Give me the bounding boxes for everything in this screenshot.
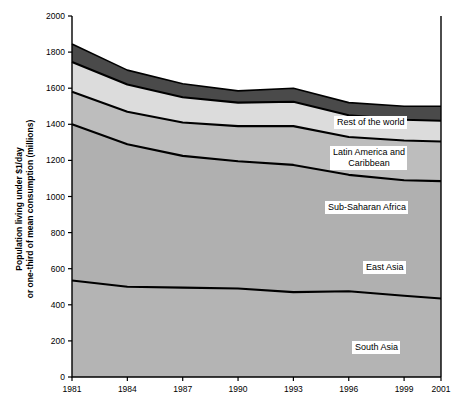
y-tick-label: 400 bbox=[51, 300, 65, 310]
series-label-rest-of-the-world: Rest of the world bbox=[334, 116, 407, 129]
y-tick-label: 1400 bbox=[46, 119, 65, 129]
y-tick-label: 1800 bbox=[46, 47, 65, 57]
series-label-sub-saharan-africa: Sub-Saharan Africa bbox=[325, 201, 408, 214]
y-axis-ticks: 0200400600800100012001400160018002000 bbox=[46, 11, 72, 382]
series-label-south-asia: South Asia bbox=[352, 341, 400, 354]
x-tick-label: 1984 bbox=[118, 384, 137, 394]
y-tick-label: 1000 bbox=[46, 192, 65, 202]
x-tick-label: 1990 bbox=[229, 384, 248, 394]
stacked-area-chart: 0200400600800100012001400160018002000 19… bbox=[0, 0, 453, 419]
x-axis-ticks: 19811984198719901993199619992001 bbox=[63, 377, 451, 394]
y-tick-label: 1200 bbox=[46, 155, 65, 165]
x-tick-label: 1987 bbox=[173, 384, 192, 394]
series-label-latin-america-and-caribbean: Latin America and Caribbean bbox=[330, 146, 407, 170]
y-tick-label: 2000 bbox=[46, 11, 65, 21]
y-tick-label: 600 bbox=[51, 264, 65, 274]
y-tick-label: 800 bbox=[51, 228, 65, 238]
x-tick-label: 1996 bbox=[339, 384, 358, 394]
y-axis-title-line2: or one-third of mean consumption (millio… bbox=[25, 120, 35, 299]
y-axis-title: Population living under $1/day or one-th… bbox=[14, 120, 35, 299]
y-tick-label: 0 bbox=[60, 372, 65, 382]
x-tick-label: 1993 bbox=[284, 384, 303, 394]
y-tick-label: 1600 bbox=[46, 83, 65, 93]
x-tick-label: 1981 bbox=[63, 384, 82, 394]
x-tick-label: 1999 bbox=[395, 384, 414, 394]
series-label-east-asia: East Asia bbox=[363, 261, 406, 274]
y-tick-label: 200 bbox=[51, 336, 65, 346]
y-axis-title-line1: Population living under $1/day bbox=[14, 147, 24, 271]
x-tick-label: 2001 bbox=[432, 384, 451, 394]
